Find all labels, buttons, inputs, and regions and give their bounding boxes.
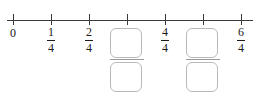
answer-box-denominator-3[interactable] [110,62,142,92]
tick-label-6: 6 4 [231,26,251,55]
tick-mark-0 [13,14,14,25]
tick-label-0: 0 [3,27,23,39]
answer-box-denominator-5[interactable] [186,62,218,92]
tick-label-4: 4 4 [155,26,175,55]
fraction-6: 6 4 [237,26,245,55]
answer-fraction-5 [186,28,220,92]
tick-mark-4 [165,14,166,25]
tick-label-2: 2 4 [79,26,99,55]
fraction-4: 4 4 [161,26,169,55]
tick-mark-1 [51,14,52,25]
fraction-numerator: 1 [47,26,55,39]
fraction-denominator: 4 [85,42,93,55]
number-line-exercise: 0 1 4 2 4 4 [0,0,262,93]
tick-mark-6 [241,14,242,25]
fraction-1: 1 4 [47,26,55,55]
answer-fraction-bar-5 [186,59,220,60]
fraction-numerator: 2 [85,26,93,39]
fraction-denominator: 4 [161,42,169,55]
tick-mark-2 [89,14,90,25]
answer-box-numerator-3[interactable] [110,28,142,58]
answer-box-numerator-5[interactable] [186,28,218,58]
answer-fraction-3 [110,28,144,92]
number-line-group: 0 1 4 2 4 4 [0,0,262,93]
fraction-denominator: 4 [47,42,55,55]
fraction-2: 2 4 [85,26,93,55]
fraction-numerator: 6 [237,26,245,39]
answer-fraction-bar-3 [110,59,144,60]
tick-label-1: 1 4 [41,26,61,55]
tick-mark-5 [203,14,204,25]
number-line-axis [7,20,253,21]
fraction-denominator: 4 [237,42,245,55]
tick-mark-3 [127,14,128,25]
fraction-numerator: 4 [161,26,169,39]
